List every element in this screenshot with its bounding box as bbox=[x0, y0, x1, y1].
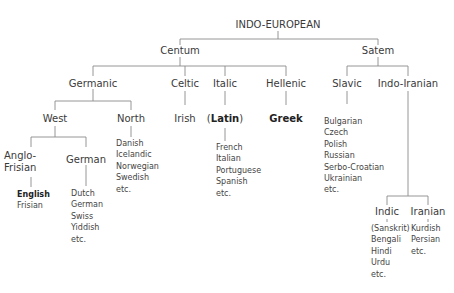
node-german: German bbox=[66, 154, 106, 166]
lang-urdu: Urdu bbox=[371, 257, 410, 268]
node-iranian: Iranian bbox=[411, 206, 446, 218]
slavic-language-list: Bulgarian Czech Polish Russian Serbo-Cro… bbox=[324, 116, 384, 196]
lang-serbo-croatian: Serbo-Croatian bbox=[324, 162, 384, 173]
lang-yiddish: Yiddish bbox=[71, 222, 103, 233]
paren-close: ) bbox=[239, 113, 243, 124]
lang-sanskrit: (Sanskrit) bbox=[371, 223, 410, 234]
lang-french: French bbox=[216, 142, 261, 153]
latin-label: Latin bbox=[211, 113, 239, 124]
lang-english: English bbox=[17, 189, 50, 200]
lang-hindi: Hindi bbox=[371, 246, 410, 257]
lang-czech: Czech bbox=[324, 127, 384, 138]
lang-ukrainian: Ukrainian bbox=[324, 173, 384, 184]
lang-norwegian: Norwegian bbox=[116, 161, 159, 172]
lang-spanish: Spanish bbox=[216, 176, 261, 187]
lang-frisian: Frisian bbox=[17, 200, 50, 211]
lang-icelandic: Icelandic bbox=[116, 149, 159, 160]
lang-portuguese: Portuguese bbox=[216, 165, 261, 176]
lang-etc: etc. bbox=[71, 234, 103, 245]
lang-russian: Russian bbox=[324, 150, 384, 161]
lang-polish: Polish bbox=[324, 139, 384, 150]
north-language-list: Danish Icelandic Norwegian Swedish etc. bbox=[116, 138, 159, 195]
node-centum: Centum bbox=[160, 45, 199, 57]
node-west-germanic: West bbox=[43, 113, 68, 125]
lang-irish: Irish bbox=[174, 113, 195, 125]
lang-etc: etc. bbox=[324, 184, 384, 195]
node-slavic: Slavic bbox=[332, 78, 361, 90]
node-indic: Indic bbox=[375, 206, 399, 218]
lang-bulgarian: Bulgarian bbox=[324, 116, 384, 127]
lang-swiss: Swiss bbox=[71, 211, 103, 222]
lang-german: German bbox=[71, 199, 103, 210]
iranian-language-list: Kurdish Persian etc. bbox=[411, 223, 441, 257]
lang-etc: etc. bbox=[216, 188, 261, 199]
node-anglo-frisian: Anglo- Frisian bbox=[4, 150, 36, 173]
romance-language-list: French Italian Portuguese Spanish etc. bbox=[216, 142, 261, 199]
node-satem: Satem bbox=[362, 45, 394, 57]
lang-danish: Danish bbox=[116, 138, 159, 149]
language-family-tree: INDO-EUROPEAN Centum Satem Germanic Celt… bbox=[0, 0, 454, 293]
lang-etc: etc. bbox=[116, 184, 159, 195]
lang-greek: Greek bbox=[269, 113, 302, 125]
german-language-list: Dutch German Swiss Yiddish etc. bbox=[71, 188, 103, 245]
node-indo-iranian: Indo-Iranian bbox=[378, 78, 438, 90]
node-germanic: Germanic bbox=[69, 78, 117, 90]
root-node-indo-european: INDO-EUROPEAN bbox=[235, 19, 320, 31]
lang-swedish: Swedish bbox=[116, 172, 159, 183]
lang-etc: etc. bbox=[371, 269, 410, 280]
lang-italian: Italian bbox=[216, 153, 261, 164]
node-hellenic: Hellenic bbox=[266, 78, 306, 90]
anglo-frisian-language-list: English Frisian bbox=[17, 189, 50, 212]
lang-persian: Persian bbox=[411, 234, 441, 245]
lang-kurdish: Kurdish bbox=[411, 223, 441, 234]
lang-dutch: Dutch bbox=[71, 188, 103, 199]
node-italic: Italic bbox=[213, 78, 237, 90]
lang-bengali: Bengali bbox=[371, 234, 410, 245]
node-latin: (Latin) bbox=[207, 113, 243, 125]
lang-etc: etc. bbox=[411, 246, 441, 257]
indic-language-list: (Sanskrit) Bengali Hindi Urdu etc. bbox=[371, 223, 410, 280]
node-north-germanic: North bbox=[117, 113, 145, 125]
node-celtic: Celtic bbox=[171, 78, 199, 90]
